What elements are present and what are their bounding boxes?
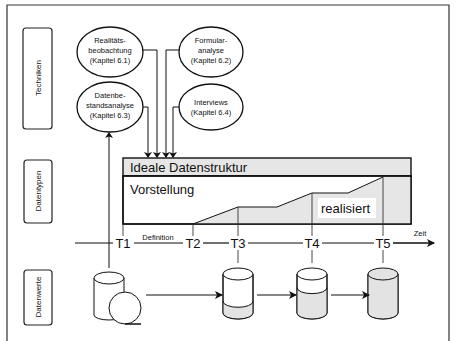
- technique-connectors: [143, 50, 179, 157]
- svg-text:(Kapitel 6.1): (Kapitel 6.1): [90, 56, 131, 65]
- time-point-t3: T3: [230, 236, 245, 251]
- time-point-t2: T2: [185, 236, 200, 251]
- zeit-label: Zeit: [414, 229, 427, 238]
- tape-reel-icon: [109, 292, 141, 324]
- database-cylinder-4: [297, 268, 327, 319]
- database-sequence: [223, 268, 398, 319]
- arrow-datenbestand: [143, 107, 148, 157]
- svg-text:Datenbe-: Datenbe-: [95, 91, 126, 100]
- svg-text:beobachtung: beobachtung: [88, 46, 131, 55]
- technique-formularanalyse: Formular- analyse (Kapitel 6.2): [179, 27, 243, 77]
- row-label-datentypen: Datentypen: [24, 160, 52, 223]
- svg-text:standsanalyse: standsanalyse: [86, 101, 134, 110]
- ideal-structure-box: Ideale Datenstruktur Vorstellung realisi…: [123, 158, 411, 224]
- svg-text:Interviews: Interviews: [194, 98, 228, 107]
- row-label-datenwerte: Datenwerte: [24, 270, 52, 325]
- label-techniken: Techniken: [34, 60, 43, 96]
- svg-text:Formular-: Formular-: [195, 36, 228, 45]
- arrow-realitaet: [143, 50, 157, 157]
- time-point-t5: T5: [375, 236, 390, 251]
- database-cylinder-3: [223, 268, 253, 319]
- svg-text:(Kapitel 6.3): (Kapitel 6.3): [90, 111, 131, 120]
- svg-text:analyse: analyse: [198, 46, 224, 55]
- label-datenwerte: Datenwerte: [34, 276, 43, 317]
- database-fill-level: [368, 274, 398, 319]
- technique-realitaetsbeobachtung: Realitäts- beobachtung (Kapitel 6.1): [77, 27, 143, 77]
- realized-text: realisiert: [321, 201, 371, 216]
- time-point-t4: T4: [304, 236, 319, 251]
- svg-text:(Kapitel 6.2): (Kapitel 6.2): [191, 56, 232, 65]
- initial-data-source: [94, 272, 141, 324]
- timeline: T1 T2 T3 T4 T5 Definition Zeit: [75, 229, 434, 251]
- row-label-techniken: Techniken: [23, 28, 52, 129]
- technique-datenbestandsanalyse: Datenbe- standsanalyse (Kapitel 6.3): [77, 82, 143, 132]
- time-point-t1: T1: [115, 236, 130, 251]
- definition-label: Definition: [142, 233, 173, 242]
- diagram: Techniken Datentypen Datenwerte Realität…: [0, 0, 457, 341]
- label-datentypen: Datentypen: [34, 171, 43, 212]
- svg-text:Realitäts-: Realitäts-: [94, 36, 126, 45]
- structure-header-text: Ideale Datenstruktur: [130, 160, 248, 175]
- database-cylinder-5: [368, 268, 398, 319]
- technique-interviews: Interviews (Kapitel 6.4): [179, 84, 243, 130]
- idea-text: Vorstellung: [130, 182, 194, 197]
- svg-text:(Kapitel 6.4): (Kapitel 6.4): [191, 108, 232, 117]
- arrow-interviews: [173, 107, 179, 157]
